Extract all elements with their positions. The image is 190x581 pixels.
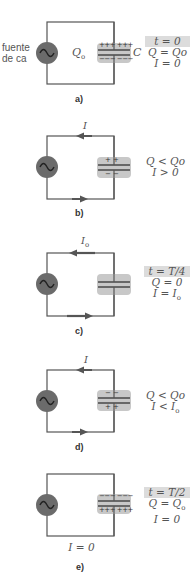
panel-c: Io t = T/4 Q = 0 I = Io c) xyxy=(0,220,190,340)
bottom-current-label: I = 0 xyxy=(64,542,99,553)
charge-label: Qo xyxy=(72,46,85,61)
plate-top-sign: +++ +++ xyxy=(99,42,133,49)
plate-top-sign: + + xyxy=(105,157,119,164)
current-label: I xyxy=(84,354,88,365)
current-arrow-top xyxy=(76,133,84,140)
current-arrow-bottom xyxy=(85,313,93,320)
equations-b: Q < Qo I > 0 xyxy=(143,156,188,178)
equations-e: t = T/2 Q = Qo I = 0 xyxy=(144,487,190,525)
current-label: Io xyxy=(81,235,89,249)
plate-top-sign: − − xyxy=(105,390,119,397)
plate-top-sign: −−− −−− xyxy=(99,493,133,500)
current-arrow-bottom xyxy=(80,429,88,436)
current-label: I xyxy=(83,120,87,131)
panel-label-d: d) xyxy=(75,442,84,452)
capacitor-label: C xyxy=(133,46,141,59)
panel-b: I + + − − Q < Qo I > 0 b) xyxy=(0,110,190,220)
equations-c: t = T/4 Q = 0 I = Io xyxy=(144,266,190,304)
plate-bottom-sign: + + xyxy=(105,404,119,411)
source-label: fuentede ca xyxy=(2,42,30,64)
current-arrow-bottom xyxy=(80,196,88,203)
current-arrow-top xyxy=(69,250,77,257)
panel-label-b: b) xyxy=(75,208,84,218)
panel-a: fuentede ca Qo +++ +++ −−− −−− C t = 0 Q… xyxy=(0,0,190,110)
panel-label-a: a) xyxy=(75,94,83,104)
panel-label-e: e) xyxy=(76,562,84,572)
panel-e: −−− −−− +++ +++ t = T/2 Q = Qo I = 0 I =… xyxy=(0,460,190,581)
plate-bottom-sign: − − xyxy=(105,171,119,178)
plate-bottom-sign: −−− −−− xyxy=(99,56,133,63)
panel-label-c: c) xyxy=(75,326,83,336)
plate-bottom-sign: +++ +++ xyxy=(99,507,133,514)
equations-d: Q < Qo I < Io xyxy=(143,390,188,417)
panel-d: I − − + + Q < Qo I < Io d) xyxy=(0,340,190,460)
current-arrow-top xyxy=(76,367,84,374)
equations-a: t = 0 Q = Qo I = 0 xyxy=(145,36,190,69)
